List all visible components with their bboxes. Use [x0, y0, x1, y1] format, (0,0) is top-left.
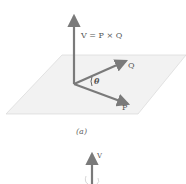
figure-a-caption: (a)	[76, 127, 87, 136]
q-label: Q	[128, 62, 135, 70]
theta-label: θ	[94, 77, 99, 85]
figure-b-v-label: V	[97, 153, 102, 160]
p-label: P	[122, 104, 127, 112]
v-equation-label: V = P × Q	[81, 32, 122, 40]
figure-a-diagram	[0, 0, 186, 184]
